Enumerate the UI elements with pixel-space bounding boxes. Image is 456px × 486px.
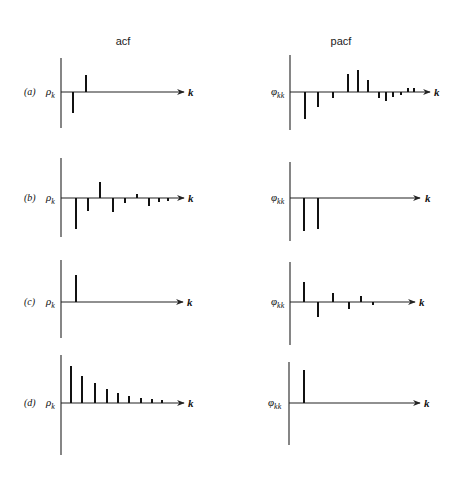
row-label-a: (a): [24, 86, 36, 98]
acf-y-label: ρk: [45, 191, 55, 206]
row-label-d: (d): [24, 397, 36, 409]
x-axis-label: k: [187, 296, 193, 308]
acf-y-label: ρk: [45, 85, 55, 100]
acf-plot-d: ρk k: [45, 355, 194, 455]
pacf-plot-a: φkk k: [271, 55, 440, 130]
pacf-y-label: φkk: [268, 396, 282, 411]
row-c: (c) ρk k φkk k: [24, 260, 425, 345]
row-a: (a) ρk k φkk k: [24, 55, 440, 130]
pacf-y-label: φkk: [271, 295, 285, 310]
acf-plot-a: ρk k: [45, 58, 194, 128]
x-axis-label: k: [424, 397, 430, 409]
x-axis-label: k: [188, 192, 194, 204]
pacf-plot-c: φkk k: [271, 262, 425, 345]
row-d: (d) ρk k φkk k: [24, 355, 430, 455]
pacf-y-label: φkk: [271, 85, 285, 100]
pacf-y-label: φkk: [271, 191, 285, 206]
acf-column-title: acf: [116, 35, 132, 47]
x-axis-label: k: [188, 86, 194, 98]
acf-y-label: ρk: [45, 295, 55, 310]
row-b: (b) ρk k φkk k: [24, 158, 431, 241]
x-axis-label: k: [188, 397, 194, 409]
pacf-column-title: pacf: [331, 35, 353, 47]
row-label-b: (b): [24, 192, 36, 204]
row-label-c: (c): [24, 296, 36, 308]
pacf-plot-d: φkk k: [268, 362, 430, 445]
acf-y-label: ρk: [45, 396, 55, 411]
x-axis-label: k: [425, 192, 431, 204]
acf-plot-b: ρk k: [45, 158, 194, 237]
pacf-plot-b: φkk k: [271, 162, 431, 241]
acf-pacf-figure: acf pacf (a) ρk k φkk k: [0, 0, 456, 486]
x-axis-label: k: [434, 86, 440, 98]
x-axis-label: k: [419, 296, 425, 308]
acf-plot-c: ρk k: [45, 260, 193, 338]
